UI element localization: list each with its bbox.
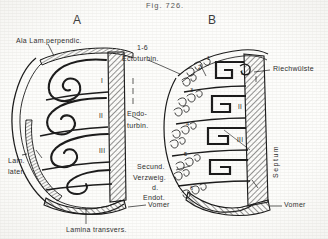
label-lamina-transvers: Lamina transvers. bbox=[66, 226, 127, 233]
label-ectoturbin-range: 1-6 bbox=[137, 44, 148, 51]
label-secund-line1: Secund. bbox=[137, 163, 165, 170]
label-endoturbin-line2: turbin. bbox=[127, 122, 149, 129]
panel-b-ecto-num-5: 5 bbox=[184, 152, 187, 158]
panel-letter-a: A bbox=[73, 14, 81, 27]
label-secund-line3: d. bbox=[152, 184, 158, 191]
label-lam-later-line2: later. bbox=[8, 168, 25, 175]
label-ala-lam-perpendic: Ala Lam.perpendic. bbox=[16, 37, 82, 44]
label-ectoturbin: Ectoturbin. bbox=[122, 55, 159, 62]
label-vomer-left: Vomer bbox=[148, 201, 170, 208]
panel-b-ecto-num-1: 1 bbox=[207, 56, 210, 62]
panel-a-numeral-ii: II bbox=[99, 113, 103, 120]
panel-a-drawing bbox=[12, 48, 133, 214]
label-secund-line2: Verzweig. bbox=[133, 174, 166, 181]
panel-b-drawing bbox=[164, 50, 270, 216]
label-endoturbin-line1: Endo- bbox=[127, 110, 147, 117]
panel-b-ecto-num-3: 3 bbox=[190, 88, 193, 94]
panel-letter-b: B bbox=[208, 14, 216, 27]
panel-b-ecto-num-2: 2 bbox=[198, 65, 201, 71]
label-septum: Septum bbox=[272, 104, 279, 178]
panel-b-ecto-num-4: 4 bbox=[186, 122, 189, 128]
panel-b-numeral-i: I bbox=[241, 70, 243, 77]
label-vomer-right: Vomer bbox=[284, 201, 306, 208]
label-lam-later-line1: Lam. bbox=[8, 157, 25, 164]
panel-a-numeral-i: I bbox=[101, 78, 103, 85]
label-riechwuelste: Riechwülste bbox=[273, 65, 314, 72]
panel-b-ecto-num-6: 6 bbox=[190, 186, 193, 192]
panel-b-numeral-ii: II bbox=[238, 104, 242, 111]
panel-a-numeral-iii: III bbox=[99, 148, 105, 155]
panel-b-numeral-iii: III bbox=[237, 137, 243, 144]
figure-caption: Fig. 726. bbox=[146, 2, 184, 10]
